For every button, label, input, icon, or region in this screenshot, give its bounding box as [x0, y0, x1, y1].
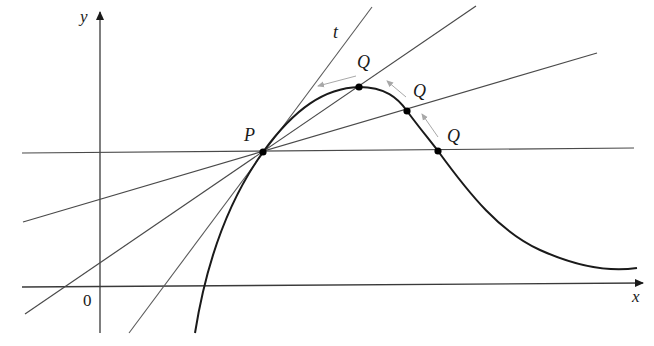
- point-p: [259, 148, 266, 155]
- diagram-canvas: y x 0 P t Q Q Q: [0, 0, 654, 346]
- point-q-label-2: Q: [413, 81, 426, 101]
- x-axis: [22, 283, 643, 287]
- y-axis-label: y: [78, 7, 88, 26]
- point-q-label-1: Q: [447, 126, 460, 146]
- point-q-label-3: Q: [357, 52, 370, 72]
- point-q-2: [403, 107, 410, 114]
- x-axis-label: x: [631, 287, 640, 306]
- origin-label: 0: [83, 291, 92, 310]
- secant-line-horizontal: [22, 148, 634, 153]
- tangent-label: t: [333, 22, 339, 42]
- point-q-1: [434, 147, 441, 154]
- approach-arrow-3: [318, 76, 356, 86]
- point-p-label: P: [243, 125, 255, 145]
- point-q-3: [355, 83, 362, 90]
- secant-line-middle: [23, 53, 597, 222]
- secant-line-steep: [25, 6, 476, 314]
- diagram-svg: y x 0 P t Q Q Q: [0, 0, 654, 346]
- function-curve: [195, 87, 637, 333]
